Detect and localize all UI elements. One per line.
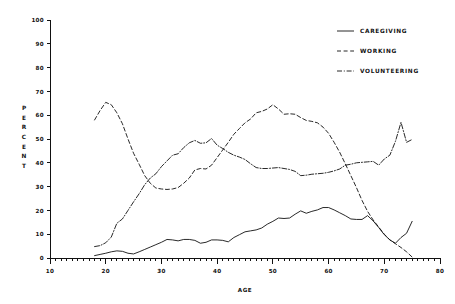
y-tick-label: 100 xyxy=(31,17,44,23)
y-tick-label: 0 xyxy=(40,255,44,261)
y-axis-ticks: 0102030405060708090100 xyxy=(31,17,50,261)
series-line-volunteering xyxy=(95,122,413,246)
chart-legend: CAREGIVINGWORKINGVOLUNTEERING xyxy=(337,28,419,74)
series-layer xyxy=(95,102,413,257)
y-axis-title-char: E xyxy=(22,115,26,121)
y-tick-label: 80 xyxy=(36,65,44,71)
y-axis-title-char: R xyxy=(22,124,27,130)
x-axis-title-text: AGE xyxy=(238,287,253,293)
x-tick-label: 40 xyxy=(213,268,221,274)
y-tick-label: 50 xyxy=(36,136,44,142)
legend-label-volunteering: VOLUNTEERING xyxy=(360,68,419,74)
x-tick-label: 30 xyxy=(157,268,165,274)
axes xyxy=(50,20,440,258)
x-tick-label: 20 xyxy=(102,268,110,274)
chart-container: 0102030405060708090100 1020304050607080 … xyxy=(0,0,455,304)
legend-label-working: WORKING xyxy=(360,48,397,54)
line-chart: 0102030405060708090100 1020304050607080 … xyxy=(0,0,455,304)
x-axis-title: AGE xyxy=(238,287,253,293)
series-line-working xyxy=(95,102,413,257)
y-axis-title-char: C xyxy=(22,134,26,140)
legend-label-caregiving: CAREGIVING xyxy=(360,28,407,34)
x-tick-label: 70 xyxy=(380,268,388,274)
y-tick-label: 10 xyxy=(36,231,44,237)
y-tick-label: 40 xyxy=(36,160,44,166)
x-tick-label: 50 xyxy=(269,268,277,274)
x-tick-label: 10 xyxy=(46,268,54,274)
y-axis-title-char: T xyxy=(22,163,26,169)
y-tick-label: 90 xyxy=(36,41,44,47)
y-axis-title-char: E xyxy=(22,144,26,150)
y-tick-label: 20 xyxy=(36,208,44,214)
y-tick-label: 70 xyxy=(36,89,44,95)
series-line-caregiving xyxy=(95,208,413,256)
y-axis-title: PERCENT xyxy=(22,105,27,169)
y-tick-label: 60 xyxy=(36,112,44,118)
y-tick-label: 30 xyxy=(36,184,44,190)
x-axis-ticks: 1020304050607080 xyxy=(46,258,444,274)
y-axis-title-char: N xyxy=(22,153,27,159)
x-tick-label: 60 xyxy=(324,268,332,274)
x-tick-label: 80 xyxy=(436,268,444,274)
y-axis-title-char: P xyxy=(22,105,27,111)
